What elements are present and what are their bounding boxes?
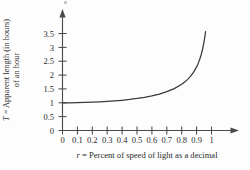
time-dilation-chart-figure: 0 0.5 1 1.5 2 2.5 3 3.5 0 0.1 0.2 0.3 0.…	[0, 0, 250, 170]
y-axis-title-symbol: T	[2, 116, 11, 121]
x-tick-label-1: 1	[202, 136, 222, 145]
time-dilation-curve	[63, 32, 206, 103]
y-tick-label-1-5: 1.5	[24, 85, 54, 94]
x-axis-arrow-icon	[231, 127, 240, 133]
y-axis-title-line-two: of an hour	[12, 6, 22, 134]
y-axis-arrow-icon	[59, 9, 65, 18]
x-axis-title: r = Percent of speed of light as a decim…	[52, 150, 242, 160]
y-axis-title-text: = Apparent length (in hours)	[2, 19, 11, 117]
y-tick-label-3: 3	[24, 44, 54, 53]
y-tick-label-3-5: 3.5	[24, 30, 54, 39]
y-tick-label-2: 2	[24, 71, 54, 80]
y-tick-label-0-5: 0.5	[24, 113, 54, 122]
x-axis-title-text: = Percent of speed of light as a decimal	[80, 150, 218, 160]
y-tick-label-1: 1	[24, 99, 54, 108]
y-tick-label-0: 0	[24, 127, 54, 136]
y-tick-label-2-5: 2.5	[24, 57, 54, 66]
y-axis-title: T = Apparent length (in hours) of an hou…	[2, 6, 22, 134]
